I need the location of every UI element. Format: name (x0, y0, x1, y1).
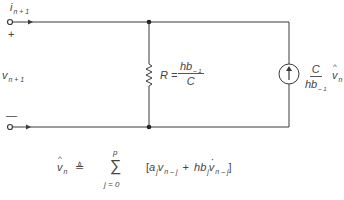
plus-sign: + (8, 29, 14, 40)
top-terminal (8, 20, 13, 25)
current-label: in + 1 (10, 2, 29, 13)
formula-rhs: [ajvn – j + hbjvn – j] (146, 162, 232, 173)
voltage-label: vn + 1 (2, 70, 24, 81)
source-variable: vn (332, 70, 342, 81)
resistor-fraction: hb– 1 C (178, 61, 204, 87)
minus-sign: — (6, 110, 17, 121)
source-fraction: C hb– 1 (305, 64, 327, 90)
current-arrow-bottom-icon (26, 125, 31, 130)
sum-upper-limit: p (113, 149, 117, 157)
current-source-icon (279, 64, 299, 84)
current-arrow-top-icon (28, 20, 33, 25)
resistor-eq-lhs: R = (160, 70, 177, 81)
formula-lhs: vn ≜ (57, 162, 84, 173)
sigma-icon: ∑ (110, 158, 121, 174)
sum-lower-limit: j = 0 (104, 181, 119, 189)
bottom-terminal (8, 125, 13, 130)
resistor-icon (146, 22, 152, 127)
